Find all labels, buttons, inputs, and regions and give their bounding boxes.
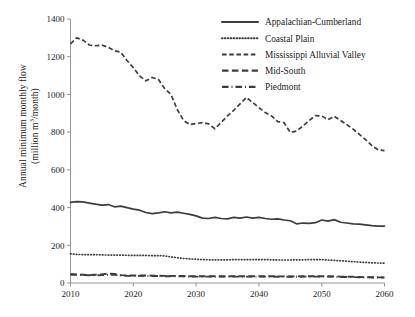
y-axis-tick-label: 400 <box>51 203 65 213</box>
y-axis-tick-label: 600 <box>51 165 65 175</box>
x-axis-tick-label: 2010 <box>62 289 81 299</box>
x-axis-tick-label: 2060 <box>376 289 395 299</box>
legend-item: Mid-South <box>222 66 306 76</box>
y-axis-tick-label: 1400 <box>47 14 66 24</box>
series-line-0 <box>71 202 385 227</box>
y-axis-tick-label: 800 <box>51 127 65 137</box>
legend-item: Piedmont <box>222 82 301 92</box>
y-axis-tick-label: 200 <box>51 241 65 251</box>
y-axis-tick-label: 1000 <box>47 90 66 100</box>
x-axis-tick-label: 2030 <box>187 289 206 299</box>
legend-item: Coastal Plain <box>222 34 315 44</box>
y-axis-tick-label: 1200 <box>47 52 66 62</box>
x-axis-tick-label: 2020 <box>124 289 143 299</box>
legend-label-1: Coastal Plain <box>265 34 315 44</box>
legend-label-4: Piedmont <box>265 82 301 92</box>
y-axis-tick-label: 0 <box>60 278 65 288</box>
legend-item: Appalachian-Cumberland <box>222 17 361 27</box>
legend-label-0: Appalachian-Cumberland <box>265 17 361 27</box>
legend-label-2: Mississippi Alluvial Valley <box>265 50 366 60</box>
x-axis-tick-label: 2050 <box>313 289 332 299</box>
series-line-4 <box>71 275 385 278</box>
legend-item: Mississippi Alluvial Valley <box>222 50 366 60</box>
x-axis-tick-label: 2040 <box>250 289 269 299</box>
chart-figure: Annual minimum monthly flow (million m3/… <box>0 0 415 317</box>
line-chart-plot: 0200400600800100012001400201020202030204… <box>0 0 415 317</box>
series-line-1 <box>71 254 385 263</box>
legend-label-3: Mid-South <box>265 66 306 76</box>
